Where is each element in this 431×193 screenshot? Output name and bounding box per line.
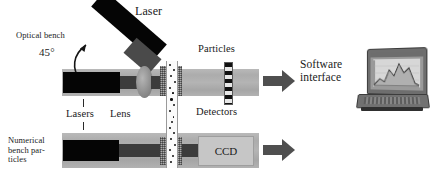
leader-line-lasers-up <box>83 99 84 107</box>
numerical-bench-beam-1 <box>119 144 163 157</box>
optical-bench-laser-box <box>63 72 120 93</box>
screen-chart <box>371 51 424 90</box>
numerical-bench-beam-2 <box>182 144 198 157</box>
ccd-box: CCD <box>198 136 254 166</box>
label-numerical-bench-particles: Numerical bench par- ticles <box>8 136 45 165</box>
leader-line-lasers-down <box>83 122 84 130</box>
label-lens: Lens <box>110 108 131 120</box>
particle-column <box>166 61 178 168</box>
laptop-lid <box>367 47 428 96</box>
laptop-keyboard <box>364 97 421 104</box>
laptop-screen <box>371 51 424 90</box>
label-angle-45: 45° <box>39 46 55 58</box>
label-laser: Laser <box>135 5 162 18</box>
arrow-to-software-lower <box>263 139 295 161</box>
figure-canvas: Laser Optical bench 45° Particles Detect… <box>0 0 431 193</box>
ccd-label: CCD <box>215 145 238 157</box>
detector-bar <box>224 62 233 105</box>
label-particles: Particles <box>198 43 235 55</box>
numerical-bench-laser-box <box>63 140 119 161</box>
label-software-interface: Software interface <box>300 58 342 84</box>
laptop-illustration <box>355 48 429 126</box>
arrow-to-software-upper <box>263 70 295 92</box>
label-lasers: Lasers <box>66 108 94 120</box>
label-detectors: Detectors <box>196 106 237 118</box>
laptop-front-edge <box>361 107 423 111</box>
